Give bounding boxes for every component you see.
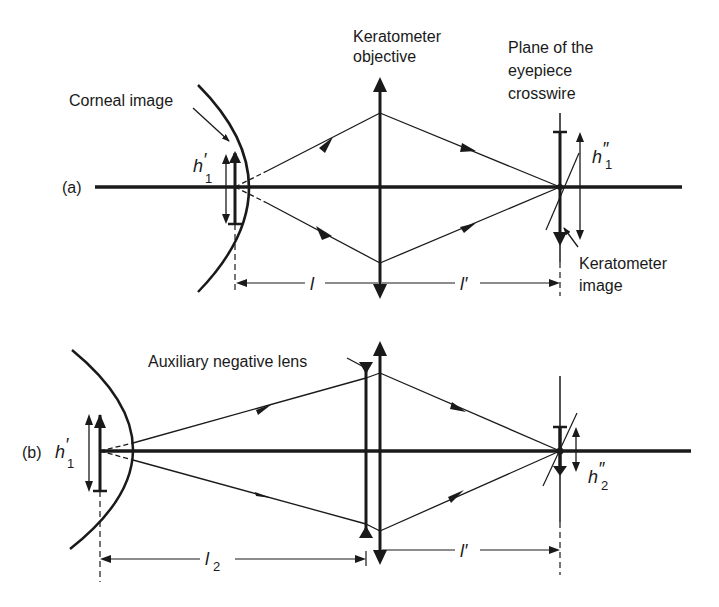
objective-label-line1: Keratometer	[353, 28, 442, 45]
svg-text:crosswire: crosswire	[508, 85, 576, 102]
svg-text:2: 2	[601, 478, 608, 493]
aux-lens-label: Auxiliary negative lens	[148, 353, 307, 370]
svg-text:l′: l′	[460, 274, 468, 294]
svg-text:2: 2	[213, 559, 220, 574]
panel-b-label: (b)	[22, 444, 42, 461]
svg-text:1: 1	[205, 171, 212, 186]
svg-text:image: image	[579, 277, 623, 294]
svg-text:Keratometer: Keratometer	[579, 255, 668, 272]
svg-text:l′: l′	[460, 541, 468, 561]
svg-text:eyepiece: eyepiece	[508, 62, 572, 79]
panel-a: (a) h′ 1 Corneal image Keratometer objec…	[62, 28, 682, 299]
svg-text:1: 1	[605, 157, 612, 172]
ray-upper-a	[267, 113, 380, 171]
svg-text:l: l	[205, 549, 210, 569]
panel-a-label: (a)	[62, 179, 82, 196]
keratometer-optics-diagram: (a) h′ 1 Corneal image Keratometer objec…	[0, 0, 719, 607]
svg-text:Plane of the: Plane of the	[508, 39, 594, 56]
objective-label-line2: objective	[353, 48, 416, 65]
panel-b: (b) h′ 1 Auxiliary negative lens	[22, 341, 691, 582]
svg-text:l: l	[310, 274, 315, 294]
svg-text:1: 1	[67, 456, 74, 471]
corneal-image-label: Corneal image	[69, 92, 173, 109]
